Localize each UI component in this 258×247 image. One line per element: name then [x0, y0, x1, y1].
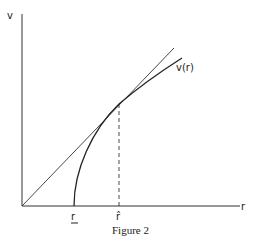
v-curve: [74, 58, 182, 206]
figure-diagram: v r v(r) r r̂ Figure 2: [0, 0, 258, 247]
tangent-ray: [22, 48, 174, 206]
r-hat-label: r̂: [116, 211, 121, 222]
x-axis-label: r: [241, 201, 246, 212]
curve-label: v(r): [176, 62, 194, 73]
figure-caption: Figure 2: [112, 224, 149, 236]
r-lower-label: r: [71, 211, 76, 222]
y-axis-label: v: [7, 10, 13, 21]
